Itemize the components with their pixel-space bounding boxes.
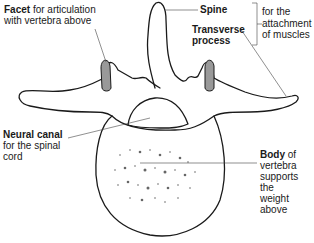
- vertebra-diagram: Facet for articulation with vertebra abo…: [0, 0, 314, 243]
- transverse-label-line2: process: [192, 36, 230, 46]
- vertebral-body-outline: [96, 116, 225, 236]
- body-label-line2: vertebra: [260, 161, 297, 171]
- muscles-label-line3: of muscles: [262, 30, 310, 40]
- body-texture: [114, 149, 196, 203]
- neural-canal-label: Neural canal: [3, 130, 62, 140]
- muscles-label-line1: for the: [262, 7, 290, 17]
- left-facet: [101, 60, 111, 91]
- left-process-outline: [19, 63, 160, 116]
- facet-label: Facet for articulation: [4, 5, 96, 15]
- body-label-line5: weight: [260, 194, 289, 204]
- body-label: Body of: [260, 150, 296, 160]
- body-label-line3: supports: [260, 172, 298, 182]
- muscles-label-line2: attachment: [262, 19, 311, 29]
- transverse-label: Transverse: [192, 25, 245, 35]
- spine-label: Spine: [200, 5, 227, 15]
- neural-canal-outline: [128, 98, 188, 128]
- facet-label-line2: with vertebra above: [4, 16, 91, 26]
- neural-canal-label-line2: for the spinal: [3, 141, 60, 151]
- body-label-line4: the: [260, 183, 274, 193]
- right-facet: [205, 60, 214, 91]
- body-label-line6: above: [260, 205, 287, 215]
- neural-canal-label-line3: cord: [3, 152, 22, 162]
